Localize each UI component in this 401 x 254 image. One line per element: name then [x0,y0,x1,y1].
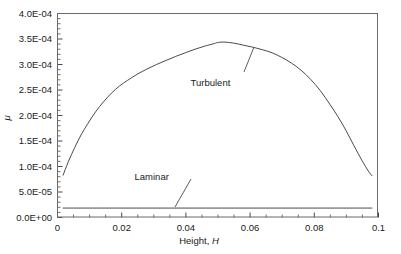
y-tick-label: 2.0E-04 [19,110,52,121]
x-axis-title: Height, H [179,235,219,246]
y-axis-tick-labels: 0.0E+005.0E-051.0E-041.5E-042.0E-042.5E-… [16,8,52,223]
y-tick-label: 0.0E+00 [16,212,52,223]
x-axis-title-variable: H [212,235,219,246]
x-tick-label: 0 [55,222,60,233]
y-tick-label: 1.0E-04 [19,161,52,172]
chart-background [0,0,401,254]
y-tick-label: 5.0E-05 [19,186,52,197]
x-tick-label: 0.02 [112,222,131,233]
y-tick-label: 1.5E-04 [19,135,52,146]
y-tick-label: 3.0E-04 [19,59,52,70]
y-tick-label: 2.5E-04 [19,84,52,95]
x-tick-label: 0.04 [177,222,196,233]
chart-container: 0.0E+005.0E-051.0E-041.5E-042.0E-042.5E-… [0,0,401,254]
x-tick-label: 0.06 [241,222,260,233]
x-tick-label: 0.1 [372,222,385,233]
line-chart: 0.0E+005.0E-051.0E-041.5E-042.0E-042.5E-… [0,0,401,254]
y-axis-title: μ [1,115,12,122]
y-tick-label: 4.0E-04 [19,8,52,19]
x-tick-label: 0.08 [305,222,324,233]
annotation-label-turbulent: Turbulent [191,77,231,88]
annotation-label-laminar: Laminar [135,171,169,182]
y-tick-label: 3.5E-04 [19,33,52,44]
